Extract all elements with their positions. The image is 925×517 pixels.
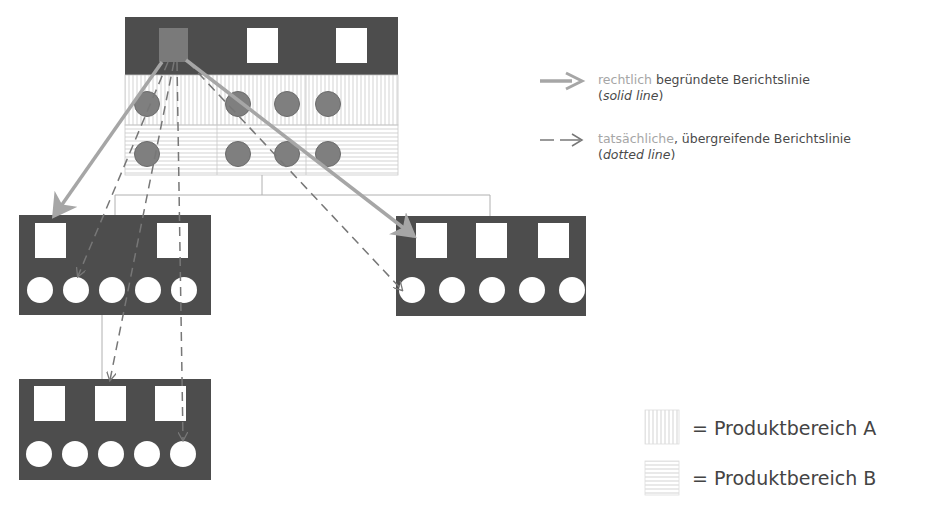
top-unit bbox=[125, 17, 398, 175]
legend-solid-rest: begründete Berichtslinie bbox=[652, 72, 810, 87]
legend-dotted-italic: dotted line bbox=[603, 147, 671, 162]
produktbereich-b-swatch bbox=[645, 461, 679, 495]
legend-solid-italic: solid line bbox=[603, 88, 659, 103]
legend-dotted-highlight: tatsächliche bbox=[598, 131, 674, 146]
legend-dotted-arrow-icon bbox=[540, 134, 582, 146]
produktbereich-a-swatch bbox=[645, 410, 679, 444]
legend-dotted-rest: , übergreifende Berichtslinie bbox=[674, 131, 851, 146]
produktbereich-b-band bbox=[125, 125, 398, 175]
top-unit-head-node bbox=[159, 28, 188, 62]
right-unit bbox=[396, 216, 586, 316]
top-unit-box-2 bbox=[247, 28, 278, 63]
left-unit bbox=[19, 215, 211, 315]
produktbereich-b-label: = Produktbereich B bbox=[692, 467, 876, 489]
legend-dotted-line: tatsächliche, übergreifende Berichtslini… bbox=[598, 131, 851, 163]
produktbereich-a-label: = Produktbereich A bbox=[692, 417, 876, 439]
legend-solid-highlight: rechtlich bbox=[598, 72, 652, 87]
top-unit-box-3 bbox=[336, 28, 367, 63]
legend-solid-line: rechtlich begründete Berichtslinie (soli… bbox=[598, 72, 810, 104]
legend-solid-arrow-icon bbox=[540, 73, 582, 89]
